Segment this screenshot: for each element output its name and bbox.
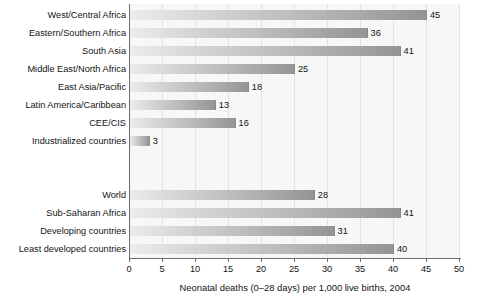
x-axis-tick-label: 45 xyxy=(421,263,431,275)
category-label: Middle East/North Africa xyxy=(2,62,126,76)
bar xyxy=(130,64,295,74)
bar-value-label: 16 xyxy=(239,117,249,129)
neonatal-mortality-bar-chart: West/Central Africa45Eastern/Southern Af… xyxy=(0,0,480,302)
bar-container xyxy=(130,118,236,128)
bar-row: South Asia41 xyxy=(0,44,480,58)
bar-container xyxy=(130,82,249,92)
bar xyxy=(130,118,236,128)
x-axis-line xyxy=(129,258,461,259)
x-axis-tick xyxy=(294,258,295,262)
bar-value-label: 31 xyxy=(338,225,348,237)
bar-row: West/Central Africa45 xyxy=(0,8,480,22)
bar-value-label: 28 xyxy=(318,189,328,201)
x-axis-tick-label: 5 xyxy=(159,263,164,275)
bar-value-label: 36 xyxy=(371,27,381,39)
x-axis-tick-label: 35 xyxy=(355,263,365,275)
x-axis-tick xyxy=(327,258,328,262)
bar xyxy=(130,10,427,20)
bar-row: Middle East/North Africa25 xyxy=(0,62,480,76)
category-label: Eastern/Southern Africa xyxy=(2,26,126,40)
x-axis-tick-label: 10 xyxy=(190,263,200,275)
bar xyxy=(130,244,394,254)
category-label: Latin America/Caribbean xyxy=(2,98,126,112)
bar-value-label: 41 xyxy=(404,45,414,57)
bar-container xyxy=(130,190,315,200)
x-axis-tick-label: 40 xyxy=(388,263,398,275)
x-axis-tick xyxy=(195,258,196,262)
bar-row: Eastern/Southern Africa36 xyxy=(0,26,480,40)
category-label: Least developed countries xyxy=(2,242,126,256)
x-axis-tick-label: 15 xyxy=(223,263,233,275)
bar-row: Industrialized countries3 xyxy=(0,134,480,148)
bar xyxy=(130,190,315,200)
bar-row: East Asia/Pacific18 xyxy=(0,80,480,94)
bar-value-label: 40 xyxy=(397,243,407,255)
bar-container xyxy=(130,46,401,56)
category-label: Developing countries xyxy=(2,224,126,238)
bar-value-label: 25 xyxy=(298,63,308,75)
bar-container xyxy=(130,136,150,146)
bar-container xyxy=(130,244,394,254)
bar-row: Developing countries31 xyxy=(0,224,480,238)
category-label: West/Central Africa xyxy=(2,8,126,22)
bar xyxy=(130,46,401,56)
bar-container xyxy=(130,208,401,218)
bar xyxy=(130,100,216,110)
bar-row: World28 xyxy=(0,188,480,202)
bar-row: CEE/CIS16 xyxy=(0,116,480,130)
category-label: Sub-Saharan Africa xyxy=(2,206,126,220)
bar xyxy=(130,28,368,38)
bar-value-label: 45 xyxy=(430,9,440,21)
x-axis-tick xyxy=(426,258,427,262)
bar-container xyxy=(130,10,427,20)
bar-value-label: 18 xyxy=(252,81,262,93)
bar-container xyxy=(130,28,368,38)
category-label: South Asia xyxy=(2,44,126,58)
category-label: East Asia/Pacific xyxy=(2,80,126,94)
bar-row: Latin America/Caribbean13 xyxy=(0,98,480,112)
bar-container xyxy=(130,226,335,236)
x-axis-tick xyxy=(393,258,394,262)
bar xyxy=(130,226,335,236)
bar-value-label: 3 xyxy=(153,135,158,147)
x-axis-tick-label: 20 xyxy=(256,263,266,275)
x-axis-title: Neonatal deaths (0–28 days) per 1,000 li… xyxy=(130,282,460,294)
x-axis-tick xyxy=(261,258,262,262)
x-axis-tick xyxy=(360,258,361,262)
x-axis-tick-label: 0 xyxy=(126,263,131,275)
bar xyxy=(130,82,249,92)
x-axis-tick-label: 25 xyxy=(289,263,299,275)
category-label: CEE/CIS xyxy=(2,116,126,130)
bar xyxy=(130,208,401,218)
bar-row: Sub-Saharan Africa41 xyxy=(0,206,480,220)
x-axis-tick xyxy=(162,258,163,262)
bar-row: Least developed countries40 xyxy=(0,242,480,256)
x-axis-tick xyxy=(129,258,130,262)
bar xyxy=(130,136,150,146)
x-axis-tick-label: 50 xyxy=(454,263,464,275)
bar-value-label: 41 xyxy=(404,207,414,219)
bar-value-label: 13 xyxy=(219,99,229,111)
category-label: World xyxy=(2,188,126,202)
category-label: Industrialized countries xyxy=(2,134,126,148)
bar-container xyxy=(130,64,295,74)
bar-container xyxy=(130,100,216,110)
x-axis-tick xyxy=(459,258,460,262)
x-axis-tick xyxy=(228,258,229,262)
x-axis-tick-label: 30 xyxy=(322,263,332,275)
